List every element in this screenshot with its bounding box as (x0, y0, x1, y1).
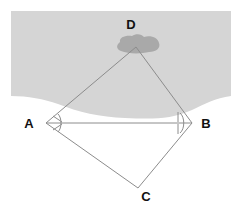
edge-C-A (46, 123, 138, 188)
diagram-canvas: A B C D (0, 0, 241, 216)
vertex-label-c: C (141, 189, 151, 204)
vertex-label-a: A (24, 116, 34, 131)
vertex-label-b: B (201, 116, 210, 131)
geometry-diagram: A B C D (0, 0, 241, 216)
vertex-label-d: D (126, 17, 135, 32)
water-region (11, 11, 231, 119)
edge-B-C (138, 123, 192, 188)
